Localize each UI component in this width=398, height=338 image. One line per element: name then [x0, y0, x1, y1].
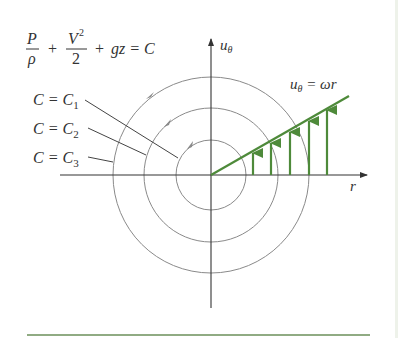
label-c3: C = C3 [33, 149, 79, 169]
eq-two: 2 [72, 50, 80, 67]
arrow-head-icon [164, 119, 171, 127]
eq-plus-2: + [95, 40, 104, 57]
profile-equation-label: uθ = ωr [290, 76, 337, 94]
leader-c1 [85, 100, 178, 158]
bernoulli-equation: P ρ + V 2 2 + gz = C [26, 27, 155, 68]
streamline-labels: C = C1 C = C2 C = C3 [33, 91, 79, 169]
leader-lines [85, 100, 178, 162]
eq-rho: ρ [27, 50, 36, 68]
eq-plus-1: + [48, 40, 57, 57]
leader-c3 [88, 157, 113, 162]
eq-tail: gz = C [111, 40, 155, 58]
eq-p: P [26, 30, 37, 47]
horizontal-axis-label: r [350, 178, 356, 194]
diagram-canvas: P ρ + V 2 2 + gz = C C = C1 C = C2 C = C… [0, 0, 398, 338]
velocity-profile-line [211, 96, 349, 175]
label-c1: C = C1 [33, 91, 79, 111]
vertical-axis-label: uθ [220, 37, 233, 55]
arrow-head-icon [187, 141, 193, 149]
label-c2: C = C2 [33, 120, 79, 140]
rigid-body-rotation-diagram: P ρ + V 2 2 + gz = C C = C1 C = C2 C = C… [0, 0, 398, 338]
eq-v-exp: 2 [79, 27, 84, 38]
velocity-vectors [253, 110, 327, 175]
